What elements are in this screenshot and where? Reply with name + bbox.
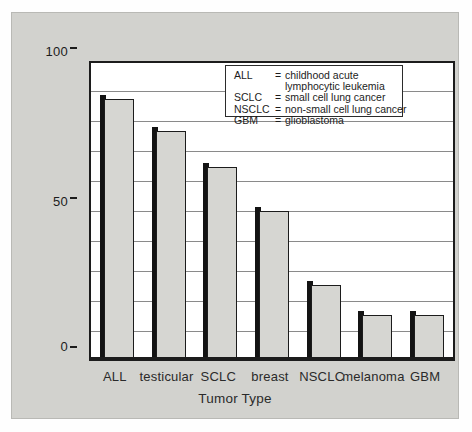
y-tick-label-50: 50 (28, 194, 68, 209)
bar-face (259, 211, 289, 359)
legend-definition-sclc: small cell lung cancer (285, 92, 402, 103)
bar-face (207, 167, 237, 359)
legend-abbr-gbm: GBM (234, 115, 275, 126)
bar-face (156, 131, 186, 359)
bar-face (104, 99, 134, 359)
bar-gbm (410, 311, 444, 359)
bar-sclc (203, 163, 237, 359)
y-tick-label-0: 0 (28, 339, 68, 354)
x-axis-title: Tumor Type (12, 391, 458, 406)
legend-box: ALL = childhood acute lymphocytic leukem… (225, 65, 403, 117)
legend-entry-sclc: SCLC = small cell lung cancer (234, 92, 402, 103)
y-tick-mark-50 (70, 197, 77, 199)
legend-definition-gbm: glioblastoma (285, 115, 402, 126)
legend-equals-sclc: = (275, 92, 285, 103)
legend-abbr-sclc: SCLC (234, 92, 275, 103)
chart-panel: Response Rate (estimated) 100 50 0 ALL (12, 13, 458, 418)
bar-testicular (152, 127, 186, 359)
bar-breast (255, 207, 289, 359)
chart-page: Response Rate (estimated) 100 50 0 ALL (0, 0, 472, 432)
y-tick-mark-0 (70, 346, 77, 348)
bar-face (414, 315, 444, 359)
bar-melanoma (358, 311, 392, 359)
x-axis-line (91, 357, 453, 359)
bar-nsclc (307, 281, 341, 359)
y-tick-label-100: 100 (28, 44, 68, 59)
x-tick-label-gbm: GBM (375, 369, 472, 384)
bar-face (362, 315, 392, 359)
bar-all (100, 95, 134, 359)
legend-entry-gbm: GBM = glioblastoma (234, 115, 402, 126)
bar-face (311, 285, 341, 359)
legend-equals-all: = (275, 70, 285, 81)
y-tick-mark-100 (70, 47, 77, 49)
legend-equals-gbm: = (275, 115, 285, 126)
legend-abbr-all: ALL (234, 70, 275, 81)
